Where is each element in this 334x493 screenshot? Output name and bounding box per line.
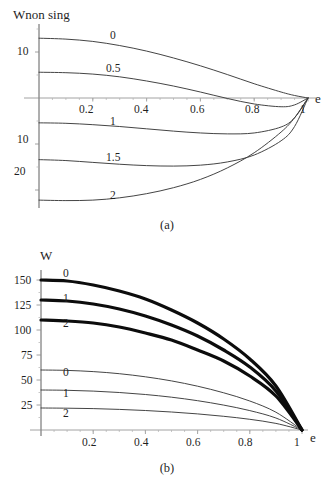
chart-a-y-tick-10: 10 <box>17 46 29 58</box>
chart-a-x-tick-0-8: 0.8 <box>245 104 259 116</box>
chart-b-thick-curve-label-2: 2 <box>63 318 69 330</box>
chart-b-x-tick-1: 1 <box>294 437 300 449</box>
chart-b-y-axis-title: W <box>40 249 52 262</box>
chart-b-thin-curve-label-0: 0 <box>63 367 69 379</box>
chart-b-y-tick-25: 25 <box>21 400 33 412</box>
chart-a-x-tick-0-4: 0.4 <box>134 104 148 116</box>
chart-b-y-tick-100: 100 <box>14 325 31 337</box>
figure-container: Wnon sing e 10 10 20 0.2 0.4 0.6 0.8 1 0… <box>0 0 334 493</box>
chart-a-x-tick-0-2: 0.2 <box>79 104 93 116</box>
chart-a-y-axis-title: Wnon sing <box>13 8 70 21</box>
chart-b-x-tick-0-8: 0.8 <box>238 437 252 449</box>
chart-b-thick-curve-label-0: 0 <box>63 268 69 280</box>
chart-b-plot-area <box>0 240 334 493</box>
chart-b-x-tick-0-4: 0.4 <box>134 437 148 449</box>
chart-panel-b: W e 150 125 100 75 50 25 0.2 0.4 0.6 0.8… <box>0 240 334 493</box>
chart-b-x-tick-0-2: 0.2 <box>82 437 96 449</box>
chart-panel-a: Wnon sing e 10 10 20 0.2 0.4 0.6 0.8 1 0… <box>0 0 334 248</box>
chart-b-thin-curve-label-2: 2 <box>63 408 69 420</box>
chart-a-x-tick-0-6: 0.6 <box>190 104 204 116</box>
chart-b-thin-curve-label-1: 1 <box>63 388 69 400</box>
chart-b-y-tick-75: 75 <box>21 350 33 362</box>
chart-a-curve-label-2: 2 <box>110 190 116 202</box>
chart-a-plot-area <box>0 0 334 248</box>
chart-b-y-tick-125: 125 <box>14 300 31 312</box>
chart-a-curve-label-0-5: 0.5 <box>106 63 120 75</box>
chart-a-caption: (a) <box>0 219 334 232</box>
chart-b-y-tick-50: 50 <box>21 375 33 387</box>
chart-a-curve-label-1: 1 <box>110 116 116 128</box>
chart-b-thick-curve-label-1: 1 <box>63 293 69 305</box>
chart-b-caption: (b) <box>0 462 334 475</box>
chart-a-y-tick-neg10: 10 <box>17 134 29 146</box>
chart-a-x-axis-title: e <box>315 92 321 105</box>
chart-a-x-tick-1: 1 <box>300 104 306 116</box>
chart-b-y-tick-150: 150 <box>14 275 31 287</box>
chart-a-curve-label-0: 0 <box>110 30 116 42</box>
chart-b-x-tick-0-6: 0.6 <box>186 437 200 449</box>
chart-a-curve-label-1-5: 1.5 <box>106 152 120 164</box>
chart-a-y-tick-neg20: 20 <box>14 166 26 178</box>
chart-b-x-axis-title: e <box>310 431 316 444</box>
